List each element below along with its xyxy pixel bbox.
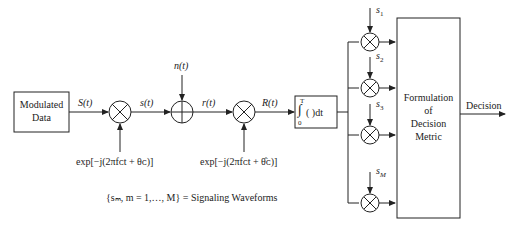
source-line1: Modulated [14, 98, 69, 111]
ref-sM: sM [376, 165, 386, 181]
signal-n: n(t) [174, 60, 188, 71]
ref-s1-sub: 1 [380, 10, 384, 18]
source-line2: Data [14, 111, 69, 124]
ref-s2-sub: 2 [380, 56, 384, 64]
ref-s3: s3 [376, 98, 383, 114]
signal-R: R(t) [262, 97, 278, 108]
ref-s3-sub: 3 [380, 104, 384, 112]
modulated-data-label: Modulated Data [14, 98, 69, 124]
metric-line2: of [397, 104, 460, 117]
ref-s1: s1 [376, 4, 383, 20]
ref-s2: s2 [376, 50, 383, 66]
decision-output: Decision [466, 100, 502, 111]
signal-r: r(t) [202, 97, 215, 108]
signal-S: S(t) [78, 97, 92, 108]
integral-lower: 0 [298, 118, 302, 129]
metric-label: Formulation of Decision Metric [397, 91, 460, 143]
ref-sM-sub: M [380, 171, 386, 179]
signal-s: s(t) [140, 97, 153, 108]
tx-oscillator-label: exp[−j(2πfᴄt + θᴄ)] [76, 156, 153, 167]
legend-signaling-waveforms: {sₘ, m = 1,…, M} = Signaling Waveforms [106, 192, 277, 203]
integral-body: ( )dt [306, 107, 323, 118]
rx-oscillator-label: exp[−j(2πfᴄt + θ̂ᴄ)] [200, 156, 277, 167]
metric-line1: Formulation [397, 91, 460, 104]
metric-line4: Metric [397, 130, 460, 143]
metric-line3: Decision [397, 117, 460, 130]
integral-sign: ∫ [298, 104, 302, 115]
